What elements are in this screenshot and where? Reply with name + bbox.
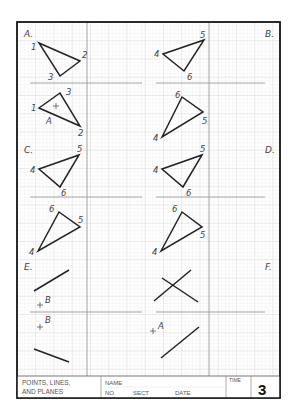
vertex-label: A bbox=[45, 116, 52, 126]
vertex-label: 5 bbox=[200, 144, 205, 154]
vertex-label: 2 bbox=[78, 128, 83, 138]
vertex-label: 3 bbox=[48, 72, 53, 82]
section-label-f: F. bbox=[265, 262, 272, 272]
vertex-label: 4 bbox=[152, 247, 157, 257]
time-field-label: TIME bbox=[229, 377, 242, 383]
section-label-c: C. bbox=[24, 145, 33, 155]
vertex-label: 4 bbox=[30, 165, 35, 175]
vertex-label: 6 bbox=[187, 72, 193, 82]
sect-field-label: SECT bbox=[133, 390, 149, 396]
sheet-number: 3 bbox=[258, 381, 266, 398]
vertex-label: 5 bbox=[77, 144, 82, 154]
grid-background bbox=[17, 22, 280, 376]
point-label: B bbox=[45, 315, 51, 325]
title-line-1: POINTS, LINES, bbox=[22, 379, 71, 386]
vertex-label: 6 bbox=[49, 204, 55, 214]
vertex-label: 5 bbox=[78, 215, 83, 225]
vertex-label: 6 bbox=[61, 188, 67, 198]
section-label-e: E. bbox=[24, 262, 33, 272]
vertex-label: 4 bbox=[153, 133, 158, 143]
vertex-label: 6 bbox=[186, 188, 192, 198]
vertex-label: 2 bbox=[82, 50, 87, 60]
vertex-label: 6 bbox=[172, 204, 178, 214]
title-line-2: AND PLANES bbox=[22, 388, 64, 395]
worksheet: A. B. C. D. E. F. bbox=[0, 0, 293, 416]
vertex-label: 4 bbox=[154, 49, 159, 59]
point-label: B bbox=[45, 295, 51, 305]
date-field-label: DATE bbox=[175, 390, 191, 396]
section-label-a: A. bbox=[23, 29, 33, 39]
section-label-b: B. bbox=[265, 29, 274, 39]
vertex-label: 6 bbox=[175, 90, 181, 100]
name-field-label: NAME bbox=[105, 380, 122, 386]
vertex-label: 5 bbox=[200, 30, 205, 40]
vertex-label: 1 bbox=[31, 42, 36, 52]
vertex-label: 4 bbox=[29, 247, 34, 257]
no-field-label: NO. bbox=[105, 390, 116, 396]
vertex-label: 5 bbox=[202, 116, 207, 126]
vertex-label: 3 bbox=[66, 87, 71, 97]
vertex-label: 5 bbox=[200, 230, 205, 240]
vertex-label: 4 bbox=[153, 165, 158, 175]
point-label: A bbox=[157, 321, 164, 331]
vertex-label: 1 bbox=[31, 103, 36, 113]
section-label-d: D. bbox=[265, 145, 275, 155]
